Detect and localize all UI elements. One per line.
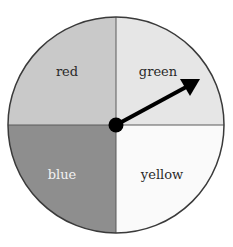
- label-red: red: [56, 64, 78, 79]
- label-yellow: yellow: [140, 167, 183, 182]
- spinner-diagram: red green blue yellow: [0, 0, 233, 247]
- label-green: green: [139, 64, 178, 79]
- center-pivot: [109, 118, 124, 133]
- label-blue: blue: [48, 167, 77, 182]
